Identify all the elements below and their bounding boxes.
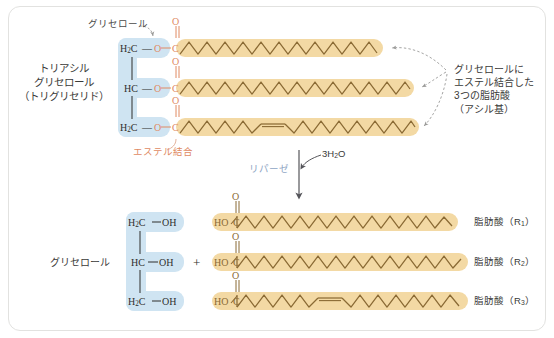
glycerol-oxygen-1: O bbox=[154, 42, 161, 55]
carboxyl-carbon-2: C bbox=[233, 256, 240, 269]
product-glycerol-label: グリセロール bbox=[50, 256, 110, 269]
glycerol-carbon-1: H2C bbox=[120, 42, 138, 57]
glycerol-bond-1: — bbox=[142, 42, 152, 55]
free-fatty-acid-2 bbox=[212, 241, 468, 271]
glycerol-bond-3: — bbox=[142, 121, 152, 134]
carboxyl-hydroxyl-2: HO bbox=[214, 256, 228, 269]
carboxyl-carbon-1: C bbox=[233, 216, 240, 229]
carbonyl-oxygen-1: O bbox=[172, 15, 179, 28]
glycerol-callout-label: グリセロール bbox=[88, 18, 148, 31]
acyl-chain-3 bbox=[176, 118, 419, 136]
ester-bond-label: エステル結合 bbox=[133, 146, 193, 159]
water-label: 3H2O bbox=[322, 148, 345, 161]
free-fatty-acid-1 bbox=[212, 201, 458, 231]
carboxyl-carbon-3: C bbox=[233, 295, 240, 308]
carboxyl-oxygen-1: O bbox=[232, 190, 239, 203]
page-title: トリアシルグリセロール（トリグリセリド） bbox=[14, 62, 114, 104]
fatty-acid-label-2: 脂肪酸（R2） bbox=[474, 256, 535, 269]
product-glycerol-hydroxyl-1: OH bbox=[162, 216, 176, 229]
carboxyl-oxygen-3: O bbox=[232, 269, 239, 282]
fatty-acid-label-3: 脂肪酸（R3） bbox=[474, 295, 535, 308]
product-glycerol-carbon-1: H2C bbox=[128, 216, 146, 231]
fatty-acid-label-1: 脂肪酸（R1） bbox=[474, 216, 535, 229]
glycerol-oxygen-2: O bbox=[154, 82, 161, 95]
product-glycerol-hydroxyl-3: OH bbox=[162, 295, 176, 308]
carboxyl-hydroxyl-1: HO bbox=[214, 216, 228, 229]
enzyme-label: リパーゼ bbox=[249, 163, 289, 176]
ester-bonds-top bbox=[161, 48, 171, 127]
glycerol-carbon-2: HC bbox=[124, 82, 138, 95]
product-glycerol-carbon-2: HC bbox=[131, 256, 145, 269]
carbonyl-carbon-3: C bbox=[172, 121, 179, 134]
acyl-chain-2 bbox=[176, 79, 414, 97]
product-glycerol-hydroxyl-2: OH bbox=[159, 256, 173, 269]
plus-sign: + bbox=[193, 254, 200, 271]
glycerol-bond-2: — bbox=[142, 82, 152, 95]
free-fatty-acid-3 bbox=[212, 280, 468, 310]
acyl-chain-1 bbox=[176, 39, 383, 57]
carbonyl-oxygen-2: O bbox=[172, 55, 179, 68]
acyl-annotation-label: グリセロールにエステル結合した3つの脂肪酸（アシル基） bbox=[454, 63, 550, 116]
figure-canvas: トリアシルグリセロール（トリグリセリド） グリセロール H2C — O HC —… bbox=[0, 0, 554, 338]
carboxyl-hydroxyl-3: HO bbox=[214, 295, 228, 308]
carboxyl-oxygen-2: O bbox=[232, 230, 239, 243]
carbonyl-oxygen-3: O bbox=[172, 94, 179, 107]
reaction-arrow bbox=[299, 150, 321, 196]
carbonyl-carbon-1: C bbox=[172, 42, 179, 55]
glycerol-carbon-3: H2C bbox=[120, 121, 138, 136]
glycerol-oxygen-3: O bbox=[154, 121, 161, 134]
product-glycerol-carbon-3: H2C bbox=[128, 295, 146, 310]
